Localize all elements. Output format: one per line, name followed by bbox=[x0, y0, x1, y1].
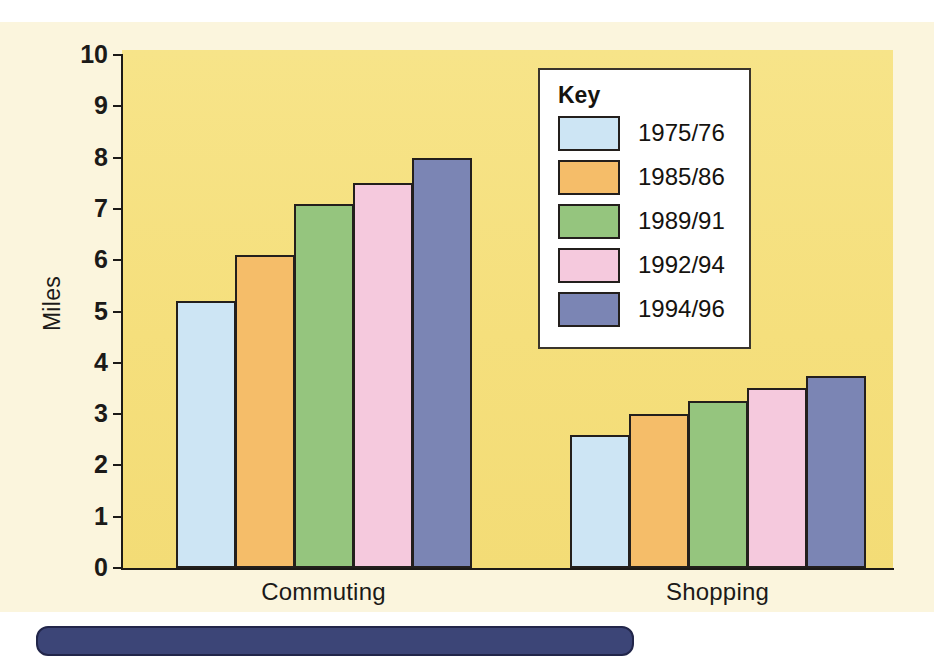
y-axis-tick bbox=[113, 54, 122, 56]
y-axis-tick-label: 1 bbox=[64, 504, 108, 529]
y-axis-tick-label: 3 bbox=[64, 401, 108, 426]
legend-item: 1989/91 bbox=[558, 199, 749, 243]
chart-legend: Key 1975/761985/861989/911992/941994/96 bbox=[538, 68, 751, 349]
y-axis-tick bbox=[113, 362, 122, 364]
y-axis-tick-label: 9 bbox=[64, 93, 108, 118]
bar-shopping-1985-86 bbox=[629, 414, 689, 568]
legend-item: 1985/86 bbox=[558, 155, 749, 199]
bar-commuting-1994-96 bbox=[412, 158, 472, 568]
y-axis-tick-label: 2 bbox=[64, 452, 108, 477]
x-axis-line bbox=[121, 568, 894, 570]
y-axis-tick bbox=[113, 311, 122, 313]
bar-commuting-1992-94 bbox=[353, 183, 413, 568]
y-axis-tick-label: 6 bbox=[64, 247, 108, 272]
y-axis-tick bbox=[113, 464, 122, 466]
legend-label: 1992/94 bbox=[638, 253, 725, 277]
y-axis-tick-label: 10 bbox=[64, 42, 108, 67]
y-axis-tick bbox=[113, 567, 122, 569]
y-axis-tick-label: 5 bbox=[64, 299, 108, 324]
legend-label: 1994/96 bbox=[638, 297, 725, 321]
bar-commuting-1985-86 bbox=[235, 255, 295, 568]
y-axis-tick-label: 7 bbox=[64, 196, 108, 221]
y-axis-tick bbox=[113, 413, 122, 415]
y-axis-tick-label: 4 bbox=[64, 350, 108, 375]
y-axis-tick bbox=[113, 157, 122, 159]
legend-item: 1975/76 bbox=[558, 111, 749, 155]
legend-label: 1985/86 bbox=[638, 165, 725, 189]
y-axis-tick-label: 0 bbox=[64, 555, 108, 580]
legend-rows: 1975/761985/861989/911992/941994/96 bbox=[540, 111, 749, 331]
legend-label: 1989/91 bbox=[638, 209, 725, 233]
legend-swatch-1989-91 bbox=[558, 204, 620, 239]
legend-swatch-1994-96 bbox=[558, 292, 620, 327]
y-axis-tick-label: 8 bbox=[64, 145, 108, 170]
x-axis-label-commuting: Commuting bbox=[176, 578, 471, 606]
legend-swatch-1985-86 bbox=[558, 160, 620, 195]
y-axis-tick-labels: 109876543210 bbox=[58, 0, 108, 642]
y-axis-title: Miles bbox=[39, 244, 66, 364]
x-axis-label-shopping: Shopping bbox=[570, 578, 865, 606]
legend-swatch-1992-94 bbox=[558, 248, 620, 283]
bar-shopping-1989-91 bbox=[688, 401, 748, 568]
bar-shopping-1975-76 bbox=[570, 435, 630, 568]
bar-commuting-1989-91 bbox=[294, 204, 354, 568]
bar-shopping-1994-96 bbox=[806, 376, 866, 568]
legend-item: 1994/96 bbox=[558, 287, 749, 331]
y-axis-tick bbox=[113, 259, 122, 261]
bottom-decorative-bar bbox=[36, 626, 634, 656]
legend-item: 1992/94 bbox=[558, 243, 749, 287]
legend-label: 1975/76 bbox=[638, 121, 725, 145]
bar-commuting-1975-76 bbox=[176, 301, 236, 568]
bar-shopping-1992-94 bbox=[747, 388, 807, 568]
y-axis-tick bbox=[113, 208, 122, 210]
legend-swatch-1975-76 bbox=[558, 116, 620, 151]
legend-title: Key bbox=[558, 84, 749, 107]
y-axis-tick bbox=[113, 516, 122, 518]
y-axis-tick bbox=[113, 105, 122, 107]
